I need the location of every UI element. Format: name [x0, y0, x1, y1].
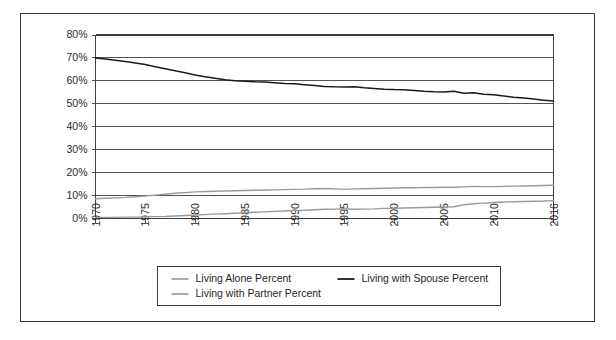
- series-line-living-alone-percent: [96, 185, 554, 199]
- x-tick-label: 2000: [388, 203, 400, 227]
- line-chart: 0%10%20%30%40%50%60%70%80% 1970197519801…: [0, 0, 616, 340]
- x-tick-label: 2010: [488, 203, 500, 227]
- y-tick-label: 80%: [66, 28, 87, 40]
- y-tick-label: 60%: [66, 74, 87, 86]
- x-tick-label: 2016: [548, 203, 560, 227]
- x-axis-tick-labels: 1970197519801985199019952000200520102016: [90, 203, 560, 227]
- y-tick-label: 10%: [66, 189, 87, 201]
- series-line-living-with-partner-percent: [96, 201, 554, 218]
- y-tick-label: 20%: [66, 166, 87, 178]
- x-tick-label: 1995: [338, 203, 350, 227]
- legend-label: Living Alone Percent: [196, 272, 292, 284]
- y-tick-label: 40%: [66, 120, 87, 132]
- x-tick-label: 1990: [289, 203, 301, 227]
- chart-legend: Living Alone PercentLiving with Spouse P…: [158, 267, 501, 306]
- y-tick-label: 0%: [72, 212, 87, 224]
- chart-plot-wrapper: 0%10%20%30%40%50%60%70%80% 1970197519801…: [0, 0, 616, 340]
- gridlines: [96, 35, 554, 219]
- x-tick-label: 1975: [139, 203, 151, 227]
- x-tick-label: 1970: [90, 203, 102, 227]
- data-series: [96, 58, 554, 217]
- y-axis-tick-labels: 0%10%20%30%40%50%60%70%80%: [66, 28, 87, 224]
- figure-canvas: 0%10%20%30%40%50%60%70%80% 1970197519801…: [0, 0, 616, 340]
- legend-label: Living with Spouse Percent: [362, 272, 489, 284]
- x-tick-label: 1985: [239, 203, 251, 227]
- y-tick-label: 50%: [66, 97, 87, 109]
- y-tick-label: 30%: [66, 143, 87, 155]
- legend-label: Living with Partner Percent: [196, 287, 322, 299]
- series-line-living-with-spouse-percent: [96, 58, 554, 101]
- y-tick-label: 70%: [66, 51, 87, 63]
